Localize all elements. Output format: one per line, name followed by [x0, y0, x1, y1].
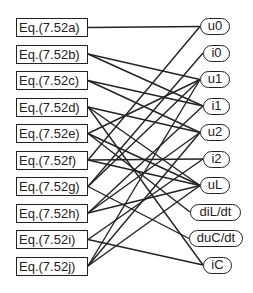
- equation-node-e: Eq.(7.52e): [16, 124, 88, 143]
- equation-node-g: Eq.(7.52g): [16, 177, 88, 196]
- equation-node-i: Eq.(7.52i): [16, 230, 88, 249]
- variable-node-i0: i0: [203, 45, 230, 62]
- variable-node-u0: u0: [200, 18, 230, 35]
- equation-node-h: Eq.(7.52h): [16, 204, 88, 223]
- edge-g-duCdt: [88, 187, 189, 239]
- equation-node-b: Eq.(7.52b): [16, 45, 88, 64]
- variable-node-iC: iC: [203, 257, 232, 274]
- variable-node-diLdt: diL/dt: [190, 204, 241, 221]
- variable-node-i1: i1: [203, 98, 230, 115]
- edge-b-i1: [88, 54, 203, 106]
- edge-a-u0: [88, 27, 200, 28]
- equation-node-c: Eq.(7.52c): [16, 71, 88, 90]
- edge-j-u2: [88, 133, 200, 267]
- edge-i-iC: [88, 240, 203, 266]
- edge-d-u2: [88, 107, 200, 133]
- edge-f-u0: [88, 27, 200, 161]
- variable-node-uL: uL: [200, 177, 230, 194]
- variable-node-u1: u1: [200, 71, 230, 88]
- equation-node-a: Eq.(7.52a): [16, 18, 88, 37]
- edge-g-u1: [88, 80, 200, 187]
- variable-node-u2: u2: [200, 124, 230, 141]
- equation-node-d: Eq.(7.52d): [16, 98, 88, 117]
- variable-node-duCdt: duC/dt: [189, 230, 243, 247]
- equation-node-j: Eq.(7.52j): [16, 257, 88, 276]
- variable-node-i2: i2: [203, 151, 230, 168]
- equation-node-f: Eq.(7.52f): [16, 151, 88, 170]
